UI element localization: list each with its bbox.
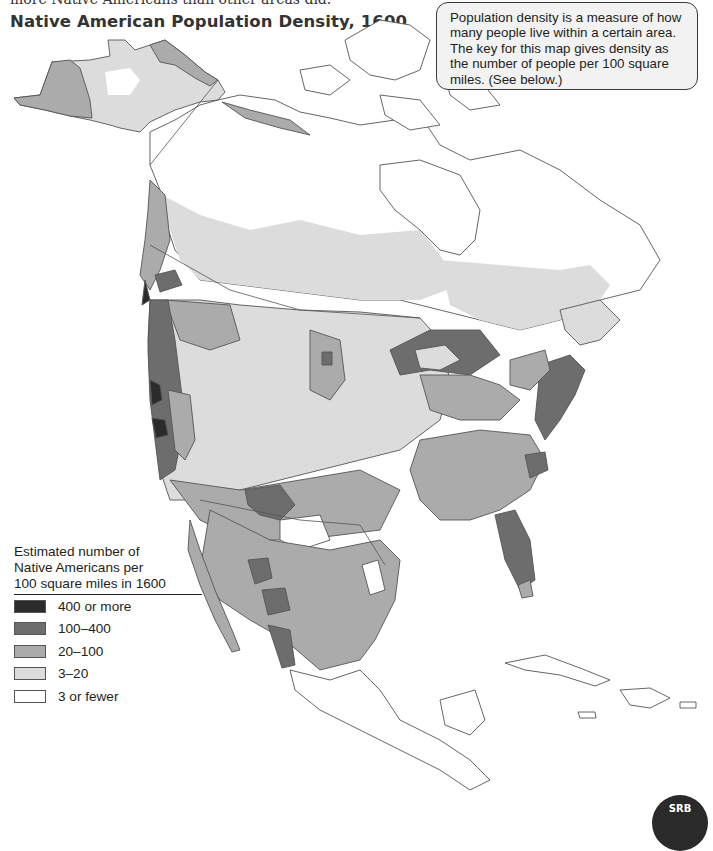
legend-title-line-2: Native Americans per — [14, 560, 204, 576]
srb-badge-icon: SRB — [652, 795, 708, 851]
region-plains-high — [322, 352, 332, 365]
region-puerto-rico — [680, 702, 696, 708]
legend-label: 3–20 — [58, 666, 88, 681]
region-cuba — [505, 655, 610, 686]
swatch-100-400 — [14, 622, 46, 635]
legend-item-3-20: 3–20 — [14, 663, 204, 686]
region-alaska-west — [14, 60, 92, 118]
region-pacific-nw-high — [155, 270, 182, 292]
legend-title: Estimated number of Native Americans per… — [14, 544, 204, 595]
region-hispaniola — [620, 688, 670, 708]
legend-item-3-or-fewer: 3 or fewer — [14, 685, 204, 708]
legend-item-100-400: 100–400 — [14, 618, 204, 641]
legend-title-line-3: 100 square miles in 1600 — [14, 576, 202, 595]
map-legend: Estimated number of Native Americans per… — [14, 544, 204, 708]
legend-item-20-100: 20–100 — [14, 640, 204, 663]
swatch-3-20 — [14, 667, 46, 680]
legend-label: 3 or fewer — [58, 689, 118, 704]
region-yucatan — [440, 690, 485, 735]
region-jamaica — [578, 712, 596, 718]
region-florida-high — [495, 510, 535, 590]
legend-label: 100–400 — [58, 621, 111, 636]
legend-item-400-or-more: 400 or more — [14, 595, 204, 618]
legend-label: 20–100 — [58, 644, 103, 659]
swatch-3-or-fewer — [14, 690, 46, 703]
definition-callout: Population density is a measure of how m… — [436, 2, 698, 90]
legend-title-line-1: Estimated number of — [14, 544, 204, 560]
legend-label: 400 or more — [58, 599, 131, 614]
swatch-400-or-more — [14, 600, 46, 613]
region-southeast — [410, 430, 545, 520]
swatch-20-100 — [14, 645, 46, 658]
